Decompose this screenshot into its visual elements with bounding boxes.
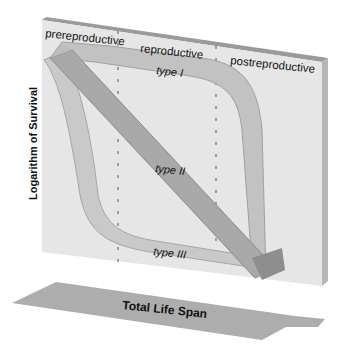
y-axis-label: Logarithm of Survival [27,87,39,200]
survivorship-diagram: prereproductive reproductive postreprodu… [0,0,338,349]
panel-side-edge [322,58,328,286]
